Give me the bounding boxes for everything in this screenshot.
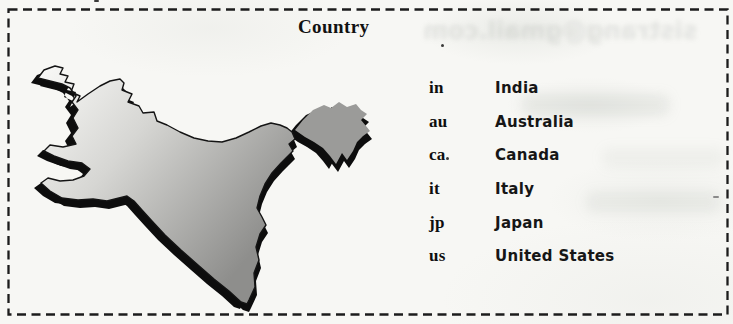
scan-speck	[713, 196, 719, 198]
table-row: it Italy	[429, 172, 709, 206]
scan-speck	[441, 44, 444, 47]
country-code-table: in India au Australia ca Canada it Italy…	[429, 71, 709, 273]
table-row: us United States	[429, 239, 709, 273]
country-name: Italy	[495, 180, 534, 198]
table-row: in India	[429, 71, 709, 105]
country-code: in	[429, 78, 495, 98]
india-map	[10, 50, 395, 315]
india-mainland-shape	[38, 66, 295, 304]
country-code: us	[429, 246, 495, 266]
country-name: Australia	[495, 113, 574, 131]
figure-title: Country	[298, 16, 418, 38]
country-name: Japan	[495, 214, 544, 232]
table-row: jp Japan	[429, 206, 709, 240]
country-name: Canada	[495, 146, 560, 164]
india-northeast-shape	[295, 102, 370, 164]
scanned-figure-page: { "figure": { "title": "Country", "backg…	[0, 0, 733, 324]
country-name: United States	[495, 247, 615, 265]
country-code: au	[429, 112, 495, 132]
country-code: ca	[429, 145, 495, 165]
country-code: it	[429, 179, 495, 199]
table-row: au Australia	[429, 105, 709, 139]
scan-speck	[446, 157, 449, 160]
scan-speck	[94, 0, 99, 2]
table-row: ca Canada	[429, 138, 709, 172]
country-code: jp	[429, 213, 495, 233]
country-name: India	[495, 79, 539, 97]
